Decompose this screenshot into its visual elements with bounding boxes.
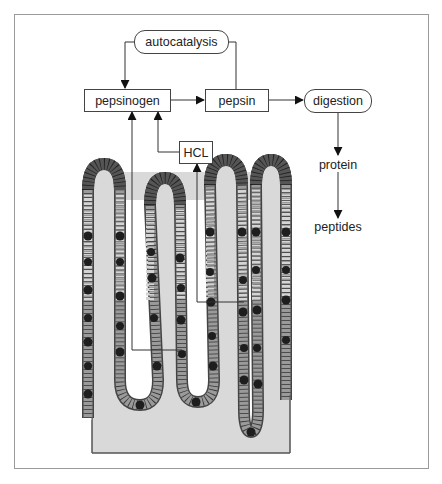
pepsinogen-node: pepsinogen [84,89,171,112]
digestion-node: digestion [304,89,372,113]
pepsin-node: pepsin [205,89,269,112]
mucosa-illustration [80,150,292,453]
protein-label: protein [319,158,357,172]
hcl-node: HCL [179,141,213,164]
edge-hcl-pepsinogen [158,112,179,152]
pepsinogen-label: pepsinogen [95,94,160,108]
edge-pepsin-autocatalysis [228,42,236,89]
autocatalysis-node: autocatalysis [134,30,229,54]
hcl-label: HCL [183,146,208,160]
autocatalysis-label: autocatalysis [145,35,217,49]
peptides-label: peptides [314,220,361,234]
edge-autocatalysis-pepsinogen [125,42,134,88]
digestion-label: digestion [313,94,363,108]
pepsin-label: pepsin [219,94,256,108]
diagram-canvas [0,0,442,484]
